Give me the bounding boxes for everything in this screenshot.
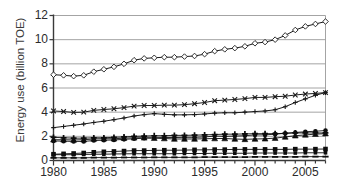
series-line [51,90,328,114]
series-line [50,157,328,158]
x-tick-label: 2005 [283,166,327,178]
series-line [51,19,329,79]
plot-area [0,0,342,192]
x-axis-tick-labels: 198019851990199520002005 [0,166,342,190]
x-tick-label: 1980 [32,166,76,178]
energy-use-line-chart: Energy use (billion TOE) 024681012 19801… [0,0,342,192]
x-tick-label: 2000 [233,166,277,178]
x-tick-label: 1990 [132,166,176,178]
x-tick-label: 1995 [183,166,227,178]
x-tick-label: 1985 [82,166,126,178]
